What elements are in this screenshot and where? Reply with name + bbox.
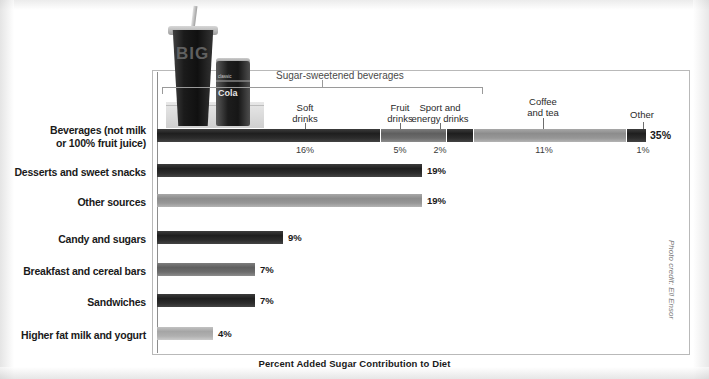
bar-separator-2 [446,129,447,142]
beverage-photo: BIG classic Cola [166,8,264,128]
category-label-desserts: Desserts and sweet snacks [0,166,152,179]
cup-logo-text: BIG [176,44,210,84]
bar-value-sandwiches: 7% [260,294,274,307]
bar-segment-other [627,129,646,142]
category-label-beverages-line2: or 100% fruit juice) [0,137,146,150]
segment-label-coffee-tea: Coffee and tea [513,97,573,118]
segment-label-sport-energy-line1: Sport and [404,103,476,114]
bar-separator-1 [380,129,381,142]
segment-tick-other [643,122,644,129]
bracket-tick [322,80,323,88]
category-label-breakfast-and-cereal-bars: Breakfast and cereal bars [0,265,152,278]
bar-value-higher-fat-milk-and-yogurt: 4% [218,327,232,340]
bar-separator-4 [626,129,627,142]
segment-label-other: Other [620,110,664,121]
bar-other-sources [157,194,422,207]
category-label-sandwiches: Sandwiches [0,296,152,309]
segment-pct-soft-drinks: 16% [276,145,334,155]
bar-candy-and-sugars [157,231,283,244]
sugar-sweetened-bracket [162,87,483,94]
category-label-beverages-line1: Beverages (not milk [0,124,146,137]
segment-tick-coffee-tea [543,118,544,129]
page-top-shade [0,0,709,10]
category-label-candy-and-sugars: Candy and sugars [0,233,152,246]
bar-desserts-and-sweet-snacks [157,164,422,177]
page-left-shade [0,0,14,379]
bar-separator-3 [473,129,474,142]
category-label-beverages: Beverages (not milk or 100% fruit juice) [0,124,152,149]
bar-value-beverages: 35% [650,129,671,142]
segment-pct-sport-energy: 2% [419,145,461,155]
bar-value-desserts: 19% [427,164,446,177]
bar-segment-sport-energy-drinks [447,129,474,142]
bar-value-candy-and-sugars: 9% [288,231,302,244]
bar-beverages [157,129,646,142]
category-axis-line [157,72,158,353]
chart-root: BIG classic Cola Sugar-sweetened beverag… [0,0,709,379]
bar-segment-fruit-drinks [381,129,447,142]
segment-label-coffee-tea-line1: Coffee [513,97,573,108]
category-label-other-sources: Other sources [0,196,152,209]
x-axis-title: Percent Added Sugar Contribution to Diet [0,358,709,369]
page-right-shade [693,0,709,379]
segment-pct-other: 1% [625,145,661,155]
bar-breakfast-and-cereal-bars [157,263,255,276]
bracket-label: Sugar-sweetened beverages [276,70,404,81]
segment-label-sport-energy: Sport and energy drinks [404,103,476,124]
bar-higher-fat-milk-and-yogurt [157,327,213,340]
bar-sandwiches [157,294,255,307]
can-small-text: classic [218,74,250,79]
segment-pct-coffee-tea: 11% [523,145,565,155]
segment-label-other-line1: Other [620,110,664,121]
can-band [216,80,250,82]
segment-label-soft-drinks: Soft drinks [276,103,334,124]
segment-pct-fruit-drinks: 5% [376,145,424,155]
segment-label-coffee-tea-line2: and tea [513,108,573,119]
bar-value-other-sources: 19% [427,194,446,207]
segment-label-soft-drinks-line1: Soft [276,103,334,114]
category-label-higher-fat-milk-and-yogurt: Higher fat milk and yogurt [0,329,152,342]
photo-credit: Photo credit: Ell Ensor [667,240,676,319]
bar-value-breakfast-and-cereal-bars: 7% [260,263,274,276]
bar-segment-soft-drinks [157,129,381,142]
bar-segment-coffee-and-tea [474,129,627,142]
